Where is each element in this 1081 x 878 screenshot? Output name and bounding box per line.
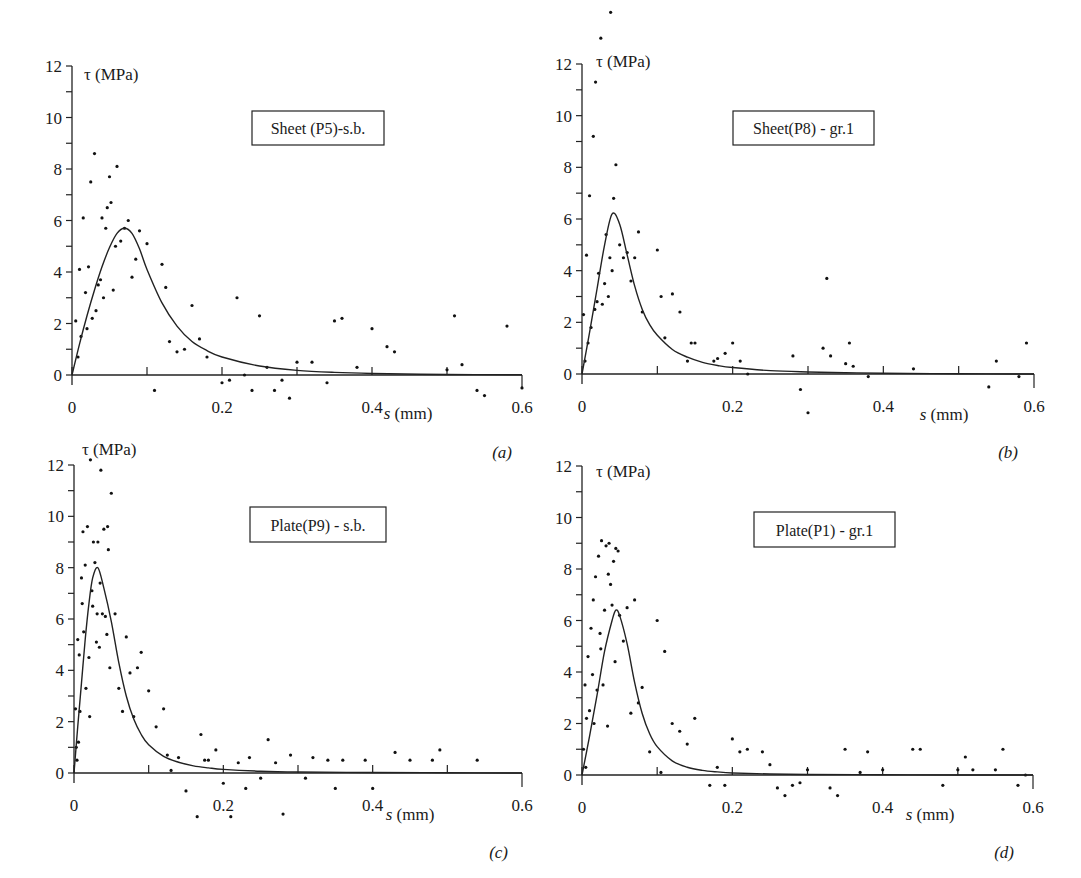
data-point [106, 525, 109, 528]
y-tick-label: 8 [56, 559, 65, 578]
y-tick-label: 2 [564, 313, 573, 332]
data-point [281, 812, 284, 815]
data-point [128, 671, 131, 674]
data-point [258, 314, 261, 317]
data-point [127, 219, 130, 222]
data-point [612, 197, 615, 200]
legend-label: Plate(P9) - s.b. [270, 517, 365, 535]
data-point [93, 561, 96, 564]
data-point [911, 748, 914, 751]
y-tick-label: 12 [555, 55, 572, 74]
x-tick-label: 0 [70, 796, 79, 815]
data-point [334, 787, 337, 790]
data-point [177, 756, 180, 759]
panel-tag: (d) [994, 843, 1014, 862]
data-point [243, 373, 246, 376]
data-point [222, 782, 225, 785]
data-point [110, 492, 113, 495]
data-point [147, 689, 150, 692]
data-point [724, 352, 727, 355]
data-point [99, 469, 102, 472]
data-point [1001, 748, 1004, 751]
data-point [244, 787, 247, 790]
data-point [89, 458, 92, 461]
y-tick-label: 4 [56, 661, 65, 680]
panel-d: 02468101200.20.40.6τ (MPa)s (mm)(d)Plate… [555, 457, 1044, 862]
legend-label: Plate(P1) - gr.1 [776, 522, 873, 540]
data-point [235, 296, 238, 299]
y-tick-label: 2 [56, 713, 65, 732]
data-point [438, 748, 441, 751]
y-tick-label: 2 [54, 315, 63, 334]
data-point [304, 777, 307, 780]
data-point [791, 354, 794, 357]
data-point [731, 341, 734, 344]
data-point [371, 787, 374, 790]
data-point [723, 784, 726, 787]
data-point [1016, 784, 1019, 787]
data-point [106, 206, 109, 209]
data-point [1025, 341, 1028, 344]
panel-tag: (b) [998, 443, 1018, 462]
data-point [663, 650, 666, 653]
data-point [799, 388, 802, 391]
data-point [476, 759, 479, 762]
data-point [583, 683, 586, 686]
data-point [594, 80, 597, 83]
data-point [205, 355, 208, 358]
data-point [102, 528, 105, 531]
data-point [609, 11, 612, 14]
data-point [866, 750, 869, 753]
data-point [289, 753, 292, 756]
data-point [601, 303, 604, 306]
data-point [199, 733, 202, 736]
data-point [96, 540, 99, 543]
data-point [74, 319, 77, 322]
data-point [248, 756, 251, 759]
data-point [626, 606, 629, 609]
data-point [108, 666, 111, 669]
data-point [385, 345, 388, 348]
data-point [183, 348, 186, 351]
data-point [89, 180, 92, 183]
data-point [86, 525, 89, 528]
y-axis-label: τ (MPa) [84, 65, 139, 84]
x-tick-label: 0.6 [511, 398, 532, 417]
data-point [648, 750, 651, 753]
data-point [604, 544, 607, 547]
data-point [196, 815, 199, 818]
data-point [708, 784, 711, 787]
y-tick-label: 6 [564, 612, 573, 631]
data-point [656, 248, 659, 251]
data-point [475, 389, 478, 392]
data-point [588, 194, 591, 197]
data-point [460, 363, 463, 366]
data-point [81, 530, 84, 533]
data-point [629, 279, 632, 282]
data-point [589, 627, 592, 630]
y-tick-label: 8 [564, 158, 573, 177]
data-point [964, 755, 967, 758]
data-point [852, 365, 855, 368]
data-point [229, 815, 232, 818]
x-tick-label: 0.2 [722, 397, 743, 416]
data-point [594, 575, 597, 578]
data-point [806, 411, 809, 414]
data-point [600, 539, 603, 542]
data-point [633, 256, 636, 259]
data-point [175, 350, 178, 353]
legend-label: Sheet(P8) - gr.1 [753, 120, 854, 138]
data-point [214, 748, 217, 751]
data-point [130, 276, 133, 279]
data-point [919, 748, 922, 751]
data-point [746, 748, 749, 751]
data-point [1017, 375, 1020, 378]
data-point [92, 540, 95, 543]
data-point [99, 278, 102, 281]
data-point [693, 341, 696, 344]
x-tick-label: 0.4 [362, 796, 384, 815]
data-point [311, 756, 314, 759]
data-point [453, 314, 456, 317]
data-point [603, 609, 606, 612]
data-point [659, 771, 662, 774]
